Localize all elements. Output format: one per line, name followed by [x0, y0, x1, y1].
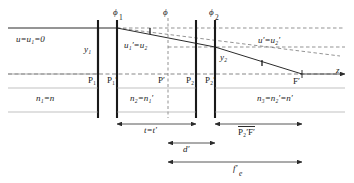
outgoing-angle-label: u′=u₂′ [258, 36, 280, 45]
power-phi-label: ϕ [163, 8, 168, 17]
medium-label-n1: n₁=n [36, 94, 54, 103]
power-phi1-subscript: 1 [119, 14, 123, 22]
incoming-angle-label: u=u₁=0 [16, 35, 45, 44]
dimension-label-t: t=t′ [144, 126, 157, 135]
outgoing-ray-to-focus [215, 47, 302, 74]
power-phi2-subscript: 2 [215, 14, 219, 22]
surface-label-P1: P₁ [88, 76, 96, 85]
dimension-label-P2prime-Fprime: P₂′F′ [238, 126, 255, 137]
medium-label-n3: n₃=n₂′=n′ [257, 94, 293, 103]
y1-label: y₁ [84, 45, 91, 54]
surface-label-P2: P₂ [186, 76, 194, 85]
focal-point-label-F-prime: F′ [293, 77, 300, 86]
surface-label-P1-prime: P₁′ [107, 76, 117, 85]
dimension-label-f-prime-subscript: e [239, 170, 242, 178]
optical-diagram-figure: ϕ 1 ϕ ϕ 2 u=u₁=0 u₁′=u₂ u′=u₂′ y₁ y₂ P₁ … [0, 0, 354, 183]
mid-angle-label: u₁′=u₂ [124, 41, 147, 50]
power-phi1-label: ϕ [113, 8, 118, 17]
surface-label-P2-prime: P₂′ [205, 76, 215, 85]
medium-label-n2: n₂=n₁′ [130, 94, 153, 103]
dimension-label-d-prime: d′ [183, 145, 189, 154]
dimension-label-f-prime: f′ [233, 164, 237, 173]
power-phi2-label: ϕ [209, 8, 214, 17]
diagram-canvas [0, 0, 354, 183]
principal-plane-label-P-prime: P′ [158, 76, 165, 85]
y2-label: y₂ [220, 53, 227, 62]
medium-region-lines [8, 88, 345, 112]
axis-label-z: z [336, 66, 340, 75]
